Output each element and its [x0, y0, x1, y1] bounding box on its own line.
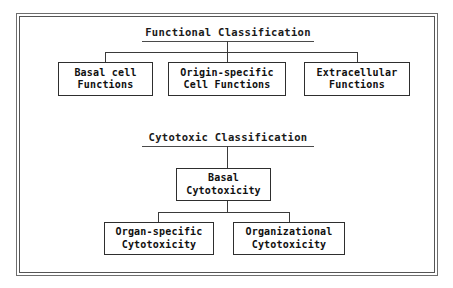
node-line-2: Cytotoxicity	[252, 239, 327, 252]
connector-functional-bar	[105, 52, 357, 53]
diagram-canvas: Functional Classification Basal cell Fun…	[0, 0, 453, 288]
node-line-1: Organ-specific	[115, 226, 202, 239]
node-line-2: Cytotoxicity	[186, 185, 261, 198]
node-line-2: Functions	[78, 79, 134, 92]
node-basal-cytotoxicity[interactable]: Basal Cytotoxicity	[176, 168, 271, 201]
node-line-2: Functions	[329, 79, 385, 92]
node-basal-cell-functions[interactable]: Basal cell Functions	[58, 62, 153, 96]
node-line-1: Basal	[208, 172, 239, 185]
section-title-cytotoxic: Cytotoxic Classification	[118, 131, 338, 143]
connector-cytotoxic-stem	[227, 146, 228, 168]
node-line-2: Cytotoxicity	[122, 239, 197, 252]
section-title-functional: Functional Classification	[118, 26, 338, 38]
node-extracellular-functions[interactable]: Extracellular Functions	[304, 62, 410, 96]
node-line-1: Organizational	[245, 226, 332, 239]
node-line-1: Basal cell	[74, 67, 136, 80]
connector-cytotoxic-bar	[158, 212, 289, 213]
node-line-1: Extracellular	[317, 67, 398, 80]
node-organ-specific-cytotoxicity[interactable]: Organ-specific Cytotoxicity	[104, 222, 214, 255]
node-line-1: Origin-specific	[180, 67, 273, 80]
cytotoxic-title-rule	[142, 146, 314, 147]
node-organizational-cytotoxicity[interactable]: Organizational Cytotoxicity	[233, 222, 345, 255]
connector-functional-stem	[227, 41, 228, 52]
functional-title-rule	[142, 41, 314, 42]
node-origin-specific-cell-functions[interactable]: Origin-specific Cell Functions	[168, 62, 286, 96]
node-line-2: Cell Functions	[183, 79, 270, 92]
